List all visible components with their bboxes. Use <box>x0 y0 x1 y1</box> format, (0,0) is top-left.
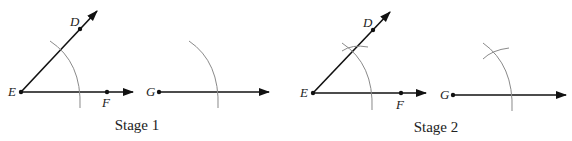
label-e: E <box>7 84 16 99</box>
label-d: D <box>362 15 373 30</box>
stage-1: E D F G Stage 1 <box>7 11 269 133</box>
compass-arc-g <box>189 41 218 108</box>
point-e <box>311 91 315 95</box>
stage-2: E D F G Stage 2 <box>299 12 566 135</box>
ray-ed <box>313 12 390 93</box>
point-g <box>451 93 455 97</box>
label-f: F <box>395 97 405 112</box>
point-f <box>105 90 109 94</box>
construction-diagram: E D F G Stage 1 E D F G S <box>0 0 572 141</box>
point-g <box>157 90 161 94</box>
label-d: D <box>69 14 80 29</box>
point-e <box>19 90 23 94</box>
point-f <box>399 91 403 95</box>
compass-arc-e <box>50 41 80 108</box>
compass-arc-e <box>342 43 372 110</box>
caption-stage-1: Stage 1 <box>115 117 160 133</box>
compass-cross-arc-g <box>483 48 509 59</box>
label-g: G <box>440 87 450 102</box>
label-f: F <box>101 95 111 110</box>
label-e: E <box>299 85 308 100</box>
compass-arc-g <box>483 43 512 111</box>
label-g: G <box>146 84 156 99</box>
ray-ed <box>21 11 97 92</box>
caption-stage-2: Stage 2 <box>414 119 459 135</box>
